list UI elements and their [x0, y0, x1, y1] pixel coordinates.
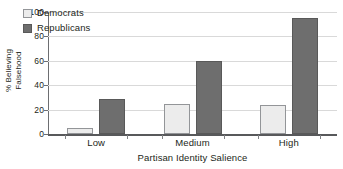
legend-item-republicans: Republicans — [23, 21, 90, 35]
bar-high-republicans — [292, 18, 318, 134]
y-tick-mark — [44, 36, 48, 37]
legend-label-republicans: Republicans — [37, 23, 90, 33]
y-tick-label: 0 — [22, 129, 44, 139]
bar-medium-democrats — [164, 104, 190, 135]
legend: Democrats Republicans — [23, 6, 90, 36]
x-tick-label: Medium — [175, 137, 209, 148]
plot-area — [48, 12, 337, 134]
y-tick-label: 60 — [22, 56, 44, 66]
y-tick-mark — [44, 61, 48, 62]
y-tick-mark — [44, 134, 48, 135]
bar-chart-figure: % Believing Falsehood 020406080100 Democ… — [0, 0, 343, 169]
bar-low-democrats — [67, 128, 93, 134]
bar-low-republicans — [99, 99, 125, 134]
y-tick-mark — [44, 85, 48, 86]
x-axis-tick-labels: LowMediumHigh — [48, 137, 337, 151]
gridline — [48, 12, 337, 13]
legend-item-democrats: Democrats — [23, 6, 90, 20]
x-axis-title: Partisan Identity Salience — [48, 152, 337, 163]
legend-label-democrats: Democrats — [37, 8, 84, 18]
x-tick-label: High — [279, 137, 299, 148]
y-tick-mark — [44, 110, 48, 111]
x-axis-line — [48, 134, 337, 136]
bar-medium-republicans — [196, 61, 222, 134]
legend-swatch-republicans-icon — [23, 24, 32, 33]
y-tick-label: 40 — [22, 80, 44, 90]
y-axis-title-line1: % Believing — [4, 49, 14, 92]
legend-swatch-democrats-icon — [23, 9, 32, 18]
y-tick-label: 20 — [22, 105, 44, 115]
bar-high-democrats — [260, 105, 286, 134]
x-tick-label: Low — [87, 137, 105, 148]
